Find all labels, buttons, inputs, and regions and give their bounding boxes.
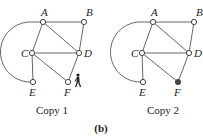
node-label-E: E (28, 86, 36, 98)
node-label-C: C (131, 47, 139, 59)
node-C (139, 50, 144, 55)
node-label-A: A (150, 6, 158, 18)
node-label-B: B (86, 6, 93, 18)
node-D (186, 50, 191, 55)
copy-2-caption: Copy 2 (147, 104, 179, 116)
edge-A-D (153, 22, 189, 53)
node-C (29, 50, 34, 55)
node-E (30, 79, 35, 84)
copy-1-caption: Copy 1 (36, 104, 68, 116)
node-B (81, 19, 86, 24)
node-A (40, 19, 45, 24)
node-B (191, 19, 196, 24)
node-label-D: D (83, 47, 92, 59)
node-A (150, 19, 155, 24)
graph-copy-2: ABCDEF (110, 6, 203, 98)
node-label-C: C (21, 47, 29, 59)
graph-figure: ABCDEF ABCDEF Copy 1 Copy 2 (b) (0, 0, 203, 140)
edge-C-E (142, 53, 143, 82)
node-label-D: D (193, 47, 202, 59)
node-label-F: F (63, 86, 71, 98)
node-label-E: E (138, 86, 146, 98)
subfigure-label: (b) (94, 122, 108, 135)
edge-C-F (142, 53, 178, 82)
node-F (65, 79, 70, 84)
graph-copy-1: ABCDEF (0, 6, 93, 98)
node-label-A: A (40, 6, 48, 18)
node-D (76, 50, 81, 55)
node-label-B: B (196, 6, 203, 18)
edge-A-D (43, 22, 79, 53)
node-E (140, 79, 145, 84)
edge-A-C (142, 22, 153, 53)
node-label-F: F (173, 86, 181, 98)
edge-C-F (32, 53, 68, 82)
edge-D-F (178, 53, 189, 82)
walking-person-icon (75, 73, 81, 87)
edge-C-E (32, 53, 33, 82)
edge-A-C (32, 22, 43, 53)
node-F (175, 79, 180, 84)
